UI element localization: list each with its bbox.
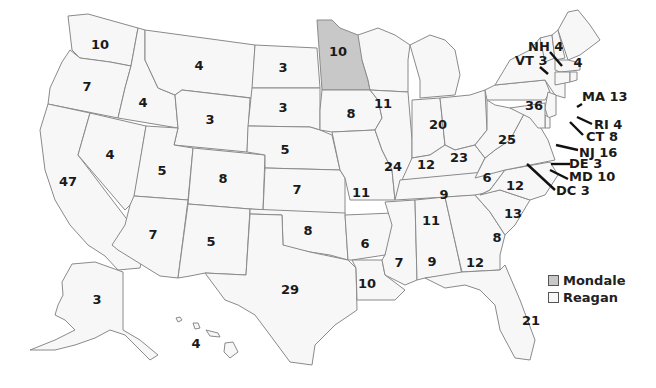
label-va: 12 [506,178,524,193]
label-ga: 12 [466,255,484,270]
label-ks: 7 [292,182,301,197]
label-ms: 7 [394,255,403,270]
label-me: 4 [573,55,582,70]
label-al: 9 [427,254,436,269]
legend-label-mondale: Mondale [563,273,625,288]
swatch-mondale [548,275,559,286]
state-mi[interactable] [410,35,460,98]
label-mo: 11 [352,185,370,200]
label-ne: 5 [280,142,289,157]
leader-nj [556,145,578,150]
label-fl: 21 [522,313,540,328]
callout-dc: DC 3 [556,183,590,198]
state-me[interactable] [558,10,600,60]
label-oh: 23 [450,150,468,165]
label-nd: 3 [278,60,287,75]
leader-ct [570,122,583,135]
label-wv: 6 [482,170,491,185]
label-ar: 6 [360,236,369,251]
label-nc: 13 [504,206,522,221]
legend-item-reagan: Reagan [548,289,625,305]
state-hi-1[interactable] [176,317,182,322]
state-ri[interactable] [570,72,577,82]
state-fl[interactable] [425,265,535,360]
leader-ri [577,117,592,124]
us-map: 10 7 47 4 4 4 3 5 7 8 5 3 3 5 7 8 29 10 … [0,0,656,388]
label-mi: 20 [429,117,447,132]
label-sc: 8 [492,230,501,245]
label-pa: 25 [498,132,516,147]
label-la: 10 [358,276,376,291]
label-ky: 9 [439,187,448,202]
label-sd: 3 [278,100,287,115]
label-il: 24 [384,159,402,174]
label-wy: 3 [205,112,214,127]
label-ny: 36 [525,98,543,113]
label-in: 12 [417,157,435,172]
label-or: 7 [82,79,91,94]
label-tn: 11 [422,213,440,228]
label-ia: 8 [346,106,355,121]
label-nv: 4 [105,147,114,162]
label-ak: 3 [92,292,101,307]
callout-ma: MA 13 [582,89,628,104]
label-az: 7 [148,227,157,242]
label-tx: 29 [281,282,299,297]
callout-nh: NH 4 [528,39,563,54]
label-ok: 8 [303,223,312,238]
state-hi-3[interactable] [206,330,220,337]
callout-md: MD 10 [569,169,615,184]
label-id: 4 [138,95,147,110]
state-hi-2[interactable] [193,323,200,329]
label-hi: 4 [191,336,200,351]
state-ct[interactable] [555,72,570,85]
legend: Mondale Reagan [548,272,625,306]
label-mn: 10 [329,44,347,59]
label-ca: 47 [59,174,77,189]
swatch-reagan [548,292,559,303]
label-co: 8 [218,171,227,186]
callout-ct: CT 8 [586,129,618,144]
state-ak[interactable] [30,262,158,360]
legend-item-mondale: Mondale [548,272,625,288]
callout-vt: VT 3 [515,53,548,68]
label-ut: 5 [157,163,166,178]
state-hi-4[interactable] [224,342,238,358]
label-wa: 10 [91,37,109,52]
leader-ma [577,104,582,107]
legend-label-reagan: Reagan [563,290,618,305]
label-wi: 11 [374,96,392,111]
label-mt: 4 [194,58,203,73]
state-ks[interactable] [263,168,345,215]
label-nm: 5 [206,234,215,249]
